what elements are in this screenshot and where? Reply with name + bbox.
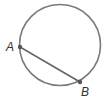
chord-ab bbox=[20, 47, 80, 82]
point-b bbox=[78, 80, 82, 84]
circle-chord-diagram: A B bbox=[0, 0, 109, 104]
label-b: B bbox=[81, 85, 89, 99]
circle bbox=[20, 5, 101, 86]
label-a: A bbox=[5, 40, 14, 54]
point-a bbox=[18, 45, 22, 49]
